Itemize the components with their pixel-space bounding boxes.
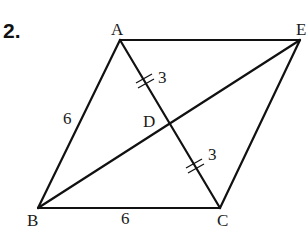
vertex-label-D: D <box>143 112 155 131</box>
vertex-label-A: A <box>111 20 124 39</box>
vertex-label-B: B <box>27 211 38 230</box>
vertex-label-E: E <box>296 20 306 39</box>
measure-AD: 3 <box>158 68 167 87</box>
quadrilateral-diagram: A E B C D 6 6 3 3 <box>0 0 308 236</box>
measure-BC: 6 <box>121 209 130 228</box>
measure-DC: 3 <box>208 145 217 164</box>
vertex-label-C: C <box>217 211 228 230</box>
measure-AB: 6 <box>63 109 72 128</box>
